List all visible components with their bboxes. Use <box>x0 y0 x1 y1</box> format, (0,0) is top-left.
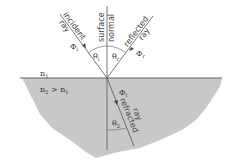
incident-ray-label: incident ray <box>55 10 88 46</box>
svg-text:normal: normal <box>107 14 116 42</box>
svg-text:surface: surface <box>97 12 106 42</box>
phi-incident-label: Φi <box>70 42 79 52</box>
medium2-label: n2 > n1 <box>40 85 68 95</box>
reflected-ray-label: reflected ray <box>122 15 157 54</box>
refraction-diagram: incident ray surface normal reflected ra… <box>0 0 232 163</box>
theta-incident-label: θi <box>93 52 100 62</box>
theta-reflected-label: θr <box>112 52 120 62</box>
phi-reflected-label: Φr <box>136 49 146 59</box>
surface-normal-label: surface normal <box>97 12 116 42</box>
medium1-label: n1 <box>40 69 48 79</box>
